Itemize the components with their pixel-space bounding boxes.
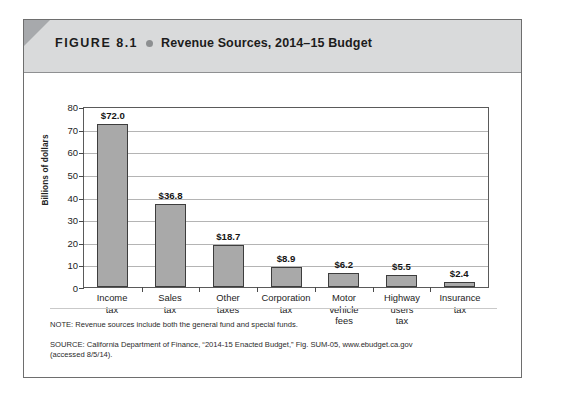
x-axis-tick-label-line: tax (431, 304, 489, 316)
x-axis-tick-label: Insurancetax (431, 292, 489, 327)
x-axis-tick-label: Highwayuserstax (373, 292, 431, 327)
bar-value-label: $18.7 (216, 231, 240, 242)
chart-area: Billions of dollars 01020304050607080 $7… (24, 73, 521, 301)
y-axis-tick-label: 30 (67, 215, 78, 226)
bar-value-label: $72.0 (101, 110, 125, 121)
notes-divider (50, 308, 497, 309)
plot-box: $72.0$36.8$18.7$8.9$6.2$5.5$2.4 (83, 107, 489, 288)
bar[interactable] (97, 124, 128, 287)
y-axis-tick-label: 80 (67, 102, 78, 113)
bar-value-label: $2.4 (450, 268, 469, 279)
x-axis-tick-label-line: tax (141, 304, 199, 316)
y-axis-tick-mark (79, 288, 84, 289)
source-text: SOURCE: California Department of Finance… (50, 340, 413, 350)
x-axis-tick-label-line: taxes (199, 304, 257, 316)
bar[interactable] (271, 267, 302, 287)
figure-title: FIGURE 8.1 Revenue Sources, 2014–15 Budg… (55, 36, 372, 50)
note-text: NOTE: Revenue sources include both the g… (50, 320, 298, 330)
y-axis-tick-label: 60 (67, 147, 78, 158)
bar-value-label: $5.5 (392, 261, 411, 272)
x-axis-tick-label-line: tax (373, 315, 431, 327)
bar[interactable] (386, 275, 417, 287)
x-axis-tick-label-line: Highway (373, 292, 431, 304)
figure-header-band: FIGURE 8.1 Revenue Sources, 2014–15 Budg… (24, 20, 521, 73)
y-axis-tick-label: 0 (73, 283, 78, 294)
bar-slot: $8.9 (257, 108, 315, 287)
x-axis-tick-label-line: fees (315, 315, 373, 327)
x-axis-tick-label-line: Motor (315, 292, 373, 304)
y-axis-tick-label: 70 (67, 124, 78, 135)
bar-value-label: $6.2 (334, 259, 353, 270)
x-axis-tick-label-line: tax (257, 304, 315, 316)
y-axis-tick-label: 40 (67, 192, 78, 203)
bar-value-label: $36.8 (159, 190, 183, 201)
bar-value-label: $8.9 (277, 253, 296, 264)
y-axis-tick-labels: 01020304050607080 (50, 107, 78, 288)
y-axis-tick-label: 20 (67, 237, 78, 248)
x-axis-tick-label-line: users (373, 304, 431, 316)
x-axis-tick-label-line: Insurance (431, 292, 489, 304)
bar-slot: $18.7 (199, 108, 257, 287)
corner-triangle-icon (24, 20, 50, 46)
figure-number: FIGURE 8.1 (55, 36, 138, 50)
x-axis-tick-label-line: tax (83, 304, 141, 316)
figure-container: FIGURE 8.1 Revenue Sources, 2014–15 Budg… (23, 19, 522, 378)
y-axis-tick-label: 10 (67, 260, 78, 271)
y-axis-title: Billions of dollars (40, 105, 50, 235)
x-axis-tick-label-line: Corporation (257, 292, 315, 304)
bar[interactable] (213, 245, 244, 287)
accessed-text: (accessed 8/5/14). (50, 350, 112, 360)
bullet-dot-icon (146, 40, 153, 47)
bar[interactable] (155, 204, 186, 287)
bar[interactable] (328, 273, 359, 287)
bar-slot: $5.5 (373, 108, 431, 287)
bar-slot: $6.2 (315, 108, 373, 287)
x-axis-tick-label-line: vehicle (315, 304, 373, 316)
x-axis-tick-label-line: Sales (141, 292, 199, 304)
bar-slot: $72.0 (84, 108, 142, 287)
bars-layer: $72.0$36.8$18.7$8.9$6.2$5.5$2.4 (84, 108, 488, 287)
bar[interactable] (444, 282, 475, 287)
x-axis-tick-label-line: Other (199, 292, 257, 304)
x-axis-tick-label-line: Income (83, 292, 141, 304)
bar-slot: $36.8 (142, 108, 200, 287)
y-axis-tick-label: 50 (67, 169, 78, 180)
x-axis-tick-label: Motorvehiclefees (315, 292, 373, 327)
figure-title-text: Revenue Sources, 2014–15 Budget (161, 36, 372, 50)
bar-slot: $2.4 (430, 108, 488, 287)
